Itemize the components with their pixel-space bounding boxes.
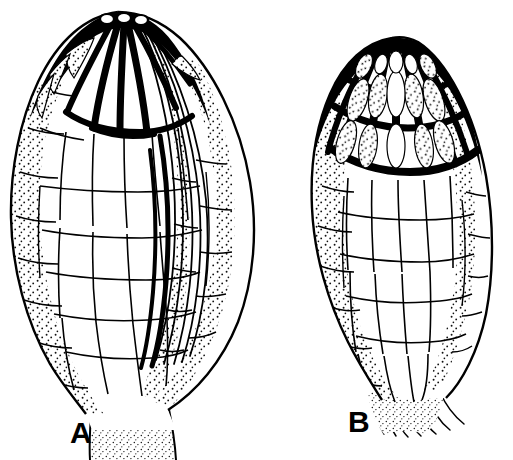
specimen-a-apical-papillae [100, 13, 148, 25]
figure-canvas: A [0, 0, 513, 460]
specimen-a-label: A [70, 416, 92, 449]
specimen-b-label: B [348, 405, 370, 438]
botanical-figure: A [0, 0, 513, 460]
